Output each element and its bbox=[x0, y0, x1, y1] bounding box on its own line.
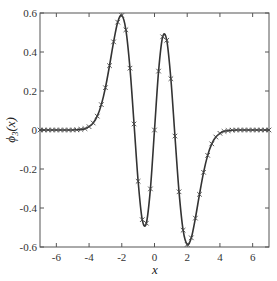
y-tick-label: 0.4 bbox=[23, 46, 37, 58]
y-tick-label: 0.2 bbox=[23, 85, 37, 97]
svg-text:ϕ3(x): ϕ3(x) bbox=[3, 117, 20, 143]
x-tick-label: 2 bbox=[184, 251, 190, 263]
y-tick-label: 0.6 bbox=[23, 7, 37, 19]
y-tick-label: -0.4 bbox=[20, 202, 38, 214]
chart: -6-4-20246 0.60.40.20-0.2-0.4-0.6 x ϕ3(x… bbox=[0, 0, 277, 281]
x-tick-label: 6 bbox=[250, 251, 256, 263]
y-tick-label: -0.6 bbox=[20, 241, 38, 253]
x-axis-label: x bbox=[151, 262, 158, 277]
x-tick-label: 4 bbox=[217, 251, 223, 263]
x-tick-label: -2 bbox=[117, 251, 126, 263]
x-tick-label: -6 bbox=[52, 251, 62, 263]
data-series bbox=[38, 13, 272, 247]
y-tick-label: 0 bbox=[32, 124, 38, 136]
x-tick-label: -4 bbox=[84, 251, 94, 263]
y-tick-label: -0.2 bbox=[20, 163, 37, 175]
x-marker bbox=[91, 121, 96, 126]
y-axis-label: ϕ3(x) bbox=[3, 117, 20, 143]
